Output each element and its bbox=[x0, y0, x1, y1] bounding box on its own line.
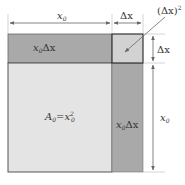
corner-square bbox=[112, 34, 143, 63]
area-diagram: x0 Δx (Δx)2 Δx x0 x0Δx x0Δx A0=x20 bbox=[0, 0, 185, 185]
label-top-dx: Δx bbox=[120, 10, 133, 21]
label-main-area: A0=x20 bbox=[44, 110, 75, 123]
label-top-x0: x0 bbox=[57, 10, 67, 22]
label-right-dx: Δx bbox=[157, 44, 170, 55]
label-right-x0: x0 bbox=[160, 112, 170, 124]
top-strip bbox=[8, 34, 112, 63]
label-top-strip: x0Δx bbox=[33, 42, 56, 54]
side-strip bbox=[112, 63, 143, 172]
label-corner-dx2: (Δx)2 bbox=[157, 4, 182, 16]
label-side-strip: x0Δx bbox=[116, 119, 139, 131]
